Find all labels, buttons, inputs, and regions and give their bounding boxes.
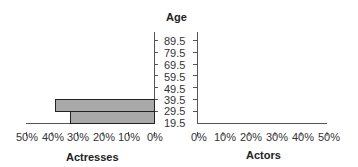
left-x-tick: 40% bbox=[42, 131, 64, 143]
right-x-tick: 20% bbox=[240, 131, 262, 143]
actresses-label: Actresses bbox=[66, 151, 119, 163]
left-x-tickmarks bbox=[26, 123, 156, 128]
right-x-tick: 10% bbox=[214, 131, 236, 143]
left-x-tick: 10% bbox=[118, 131, 140, 143]
actors-label: Actors bbox=[246, 149, 281, 161]
left-x-tick: 30% bbox=[67, 131, 89, 143]
right-x-tickmarks bbox=[197, 123, 328, 128]
left-x-tick: 50% bbox=[16, 131, 38, 143]
right-x-tick: 30% bbox=[266, 131, 288, 143]
right-x-tick: 40% bbox=[292, 131, 314, 143]
left-x-tick: 20% bbox=[93, 131, 115, 143]
right-x-tick: 0% bbox=[191, 131, 207, 143]
right-axis-line bbox=[197, 32, 198, 124]
right-x-tick: 50% bbox=[318, 131, 340, 143]
tick-marks bbox=[154, 40, 197, 124]
left-x-tick: 0% bbox=[147, 131, 163, 143]
age-title: Age bbox=[166, 11, 187, 23]
